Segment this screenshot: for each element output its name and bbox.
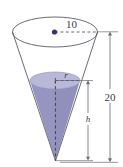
total-height-label: 20: [105, 91, 117, 103]
cone-center-dot-icon: [52, 29, 57, 34]
liquid-radius-label: r: [64, 70, 68, 80]
liquid-height-label: h: [86, 114, 91, 124]
total-height-arrowhead-top-icon: [108, 32, 112, 36]
cone-diagram-svg: 10 20 r h: [0, 0, 123, 167]
h-arrowhead-bottom-icon: [86, 157, 90, 161]
total-height-arrowhead-bottom-icon: [108, 158, 112, 162]
top-radius-label: 10: [66, 18, 78, 30]
h-arrowhead-top-icon: [86, 80, 90, 84]
cone-diagram-figure: 10 20 r h: [0, 0, 123, 167]
